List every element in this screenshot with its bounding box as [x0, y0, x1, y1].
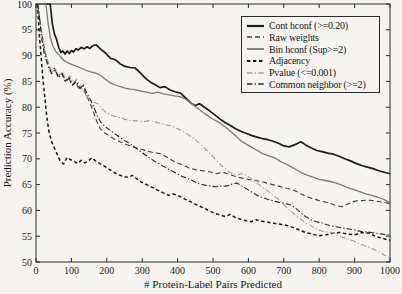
y-tick-label: 55	[22, 231, 32, 242]
legend-label-raw-weights: Raw weights	[269, 32, 319, 43]
y-tick-label: 90	[22, 50, 32, 61]
legend-line-sample-adjacency	[247, 57, 264, 65]
y-tick-label: 100	[17, 0, 32, 10]
x-tick-label: 700	[276, 265, 291, 276]
x-tick-label: 400	[170, 265, 185, 276]
x-tick-label: 100	[64, 265, 79, 276]
legend-line-sample-cont-hconf	[247, 22, 264, 30]
y-axis-title: Prediction Accuracy (%)	[1, 78, 14, 187]
legend-line-sample-common-neighbor	[247, 80, 264, 88]
y-tick-label: 65	[22, 179, 32, 190]
x-tick-label: 300	[135, 265, 150, 276]
legend-label-cont-hconf: Cont hconf (>=0.20)	[269, 20, 348, 31]
y-tick-label: 70	[22, 153, 32, 164]
legend-line-sample-raw-weights	[247, 33, 264, 41]
legend-label-adjacency: Adjacency	[269, 55, 310, 66]
y-tick-label: 60	[22, 205, 32, 216]
x-tick-label: 600	[241, 265, 256, 276]
y-tick-label: 80	[22, 102, 32, 113]
legend-entry-raw-weights: Raw weights	[247, 32, 375, 43]
line-chart-figure: 0100200300400500600700800900100050556065…	[0, 0, 402, 294]
legend-entry-common-neighbor: Common neighbor (>=2)	[247, 79, 375, 90]
legend-entry-pvalue: Pvalue (<=0.001)	[247, 67, 375, 78]
legend-line-sample-pvalue	[247, 69, 264, 77]
legend-label-bin-hconf: Bin hconf (Sup>=2)	[269, 44, 346, 55]
y-tick-label: 75	[22, 128, 32, 139]
y-tick-label: 85	[22, 76, 32, 87]
legend-label-common-neighbor: Common neighbor (>=2)	[269, 79, 366, 90]
legend-label-pvalue: Pvalue (<=0.001)	[269, 67, 336, 78]
y-tick-label: 50	[22, 257, 32, 268]
legend-entry-cont-hconf: Cont hconf (>=0.20)	[247, 20, 375, 31]
x-tick-label: 900	[347, 265, 362, 276]
x-axis-title: # Protein-Label Pairs Predicted	[144, 278, 282, 290]
legend: Cont hconf (>=0.20)Raw weightsBin hconf …	[241, 16, 380, 93]
legend-entry-adjacency: Adjacency	[247, 55, 375, 66]
x-tick-label: 500	[206, 265, 221, 276]
x-tick-label: 0	[34, 265, 39, 276]
x-tick-label: 800	[312, 265, 327, 276]
x-tick-label: 200	[99, 265, 114, 276]
y-tick-label: 95	[22, 24, 32, 35]
x-tick-label: 1000	[380, 265, 400, 276]
legend-line-sample-bin-hconf	[247, 45, 264, 53]
legend-entry-bin-hconf: Bin hconf (Sup>=2)	[247, 44, 375, 55]
